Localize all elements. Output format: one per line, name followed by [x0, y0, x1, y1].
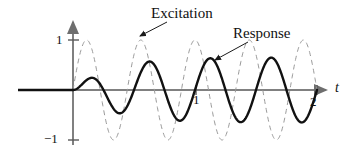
x-axis-tick-label-2: 2 — [310, 95, 317, 108]
callout-group — [140, 22, 248, 60]
x-axis-tick-label-1: 1 — [193, 93, 200, 106]
excitation-leader-line — [140, 22, 167, 36]
x-axis-name-label: t — [335, 81, 339, 95]
response-label: Response — [233, 26, 291, 41]
y-axis-tick-label-1: 1 — [56, 33, 63, 46]
excitation-response-chart: Excitation Response 1 −1 1 2 t — [0, 0, 350, 157]
y-axis-tick-label-minus-1: −1 — [44, 132, 58, 145]
excitation-label: Excitation — [151, 6, 213, 21]
response-leader-line — [215, 42, 248, 60]
